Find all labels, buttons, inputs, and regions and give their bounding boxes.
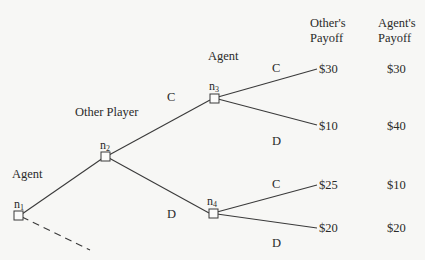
branch-label-n4-C: C [272, 177, 280, 191]
branch-label-n3-D: D [272, 134, 281, 148]
player-label-n3: Agent [208, 49, 239, 63]
header-others-payoff: Other's Payoff [310, 16, 346, 46]
branch-label-n3-C: C [272, 61, 280, 75]
payoff-agents-CC: $30 [387, 62, 406, 76]
node-label-n4: n4 [207, 195, 217, 211]
edge-n4-C [217, 185, 317, 212]
header-others-line2: Payoff [310, 31, 346, 46]
node-label-n1: n1 [14, 198, 24, 214]
payoff-others-DD: $20 [319, 221, 338, 235]
payoff-others-CD: $10 [319, 119, 338, 133]
edge-n3-C [218, 69, 317, 97]
header-agents-payoff: Agent's Payoff [378, 16, 416, 46]
game-tree-edges [0, 0, 425, 260]
branch-label-n4-D: D [272, 236, 281, 250]
node-label-n2: n2 [100, 139, 110, 155]
header-agents-line2: Payoff [378, 31, 416, 46]
payoff-agents-DD: $20 [387, 221, 406, 235]
payoff-others-CC: $30 [319, 62, 338, 76]
edge-n2-n4-D [109, 158, 209, 213]
header-agents-line1: Agent's [378, 16, 416, 31]
edge-n1-dashed [22, 217, 90, 250]
player-label-n1: Agent [12, 167, 43, 181]
edge-n3-D [218, 99, 317, 125]
node-label-n3: n3 [209, 80, 219, 96]
branch-label-n2-C: C [167, 90, 175, 104]
payoff-others-DC: $25 [319, 178, 338, 192]
player-label-n2: Other Player [75, 105, 139, 119]
payoff-agents-DC: $10 [387, 178, 406, 192]
header-others-line1: Other's [310, 16, 346, 31]
payoff-agents-CD: $40 [387, 119, 406, 133]
branch-label-n2-D: D [167, 207, 176, 221]
edge-n4-D [217, 214, 317, 228]
